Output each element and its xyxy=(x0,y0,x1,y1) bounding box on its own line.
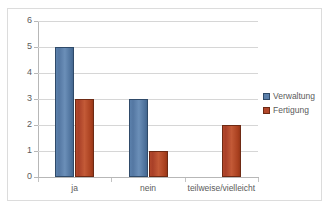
y-tick-mark-3 xyxy=(34,99,38,100)
legend-label-fertigung: Fertigung xyxy=(273,106,309,115)
plot-area xyxy=(38,21,258,177)
y-tick-label-5: 5 xyxy=(8,42,32,51)
x-axis-line xyxy=(38,177,259,178)
bar-fertigung-nein xyxy=(149,151,168,177)
legend-item-verwaltung: Verwaltung xyxy=(263,90,325,103)
y-tick-label-1: 1 xyxy=(8,146,32,155)
bar-verwaltung-ja xyxy=(55,47,74,177)
x-tick-mark-2 xyxy=(185,178,186,182)
bar-fertigung-teilweise-vielleicht xyxy=(222,125,241,177)
x-tick-mark-0 xyxy=(38,178,39,182)
x-tick-mark-3 xyxy=(258,178,259,182)
y-tick-mark-6 xyxy=(34,21,38,22)
legend-swatch-verwaltung xyxy=(263,93,270,100)
chart-legend: VerwaltungFertigung xyxy=(263,90,325,118)
bar-chart: 0123456 janeinteilweise/vielleicht Verwa… xyxy=(0,0,330,209)
y-tick-mark-5 xyxy=(34,47,38,48)
y-tick-label-3: 3 xyxy=(8,94,32,103)
x-tick-label-0: ja xyxy=(38,183,111,193)
bar-verwaltung-nein xyxy=(129,99,148,177)
clipped-chart-title xyxy=(26,0,256,3)
y-tick-label-4: 4 xyxy=(8,68,32,77)
x-tick-label-2: teilweise/vielleicht xyxy=(185,183,258,193)
y-tick-label-0: 0 xyxy=(8,172,32,181)
legend-swatch-fertigung xyxy=(263,107,270,114)
gridline-6 xyxy=(38,21,258,22)
bar-fertigung-ja xyxy=(75,99,94,177)
y-tick-mark-4 xyxy=(34,73,38,74)
y-tick-label-6: 6 xyxy=(8,16,32,25)
legend-label-verwaltung: Verwaltung xyxy=(273,92,315,101)
y-axis-tick-labels: 0123456 xyxy=(6,0,32,209)
x-tick-mark-1 xyxy=(111,178,112,182)
y-tick-mark-1 xyxy=(34,151,38,152)
y-tick-mark-2 xyxy=(34,125,38,126)
legend-item-fertigung: Fertigung xyxy=(263,104,325,117)
x-tick-label-1: nein xyxy=(111,183,184,193)
y-tick-label-2: 2 xyxy=(8,120,32,129)
